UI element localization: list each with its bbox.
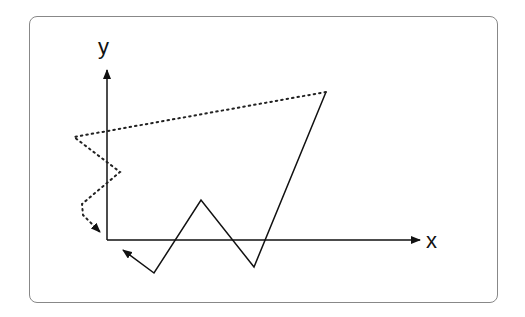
diagram-canvas	[0, 0, 525, 317]
dotted-path	[74, 92, 326, 232]
y-axis-label: y	[98, 34, 109, 60]
x-axis-label: x	[426, 228, 437, 254]
solid-path	[123, 92, 326, 273]
